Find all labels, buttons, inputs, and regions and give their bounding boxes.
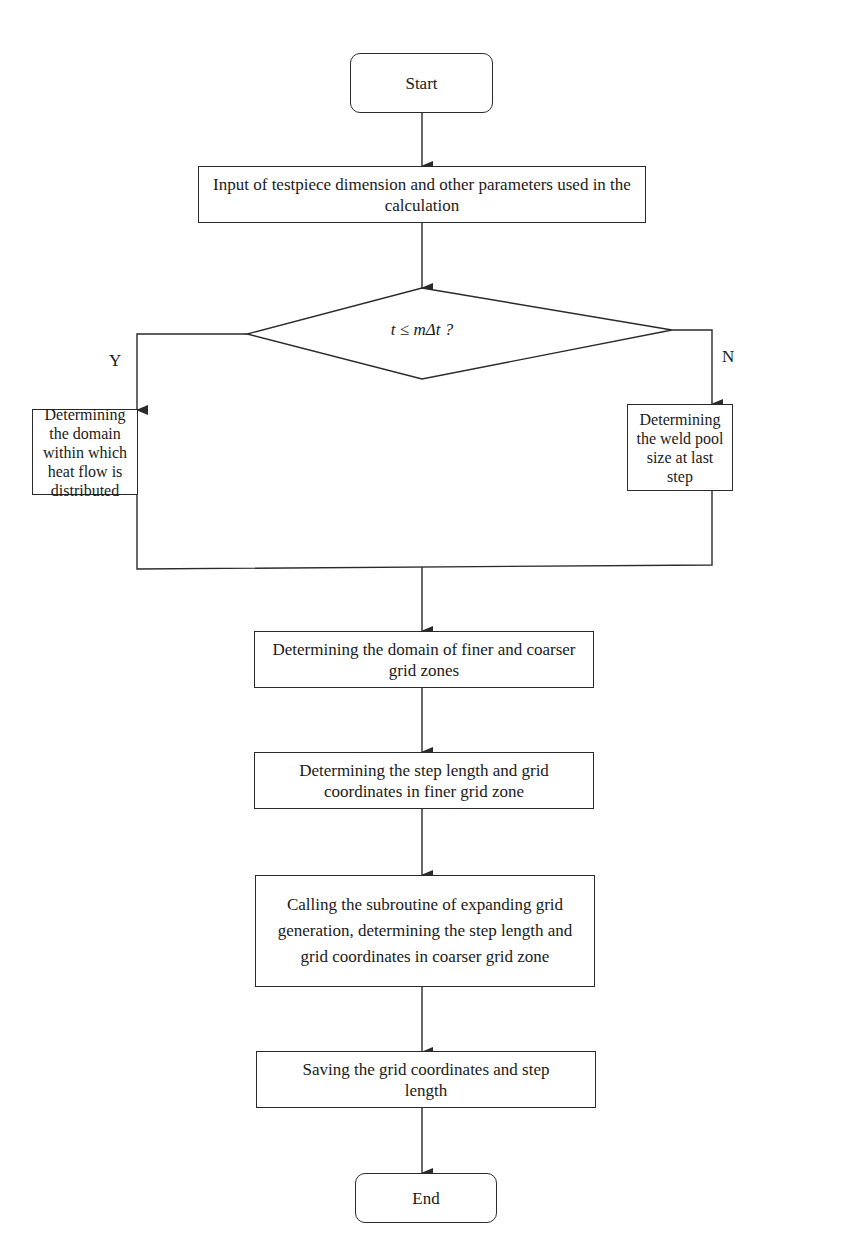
heat-flow-domain-label: Determining the domain within which heat… <box>35 405 135 500</box>
yes-label: Y <box>109 351 121 371</box>
save-grid-node: Saving the grid coordinates and step len… <box>256 1051 596 1108</box>
input-parameters-node: Input of testpiece dimension and other p… <box>198 166 646 223</box>
no-label: N <box>722 347 734 367</box>
weld-pool-size-label: Determining the weld pool size at last s… <box>632 410 728 486</box>
input-parameters-label: Input of testpiece dimension and other p… <box>203 174 641 216</box>
heat-flow-domain-node: Determining the domain within which heat… <box>32 409 138 495</box>
save-grid-label: Saving the grid coordinates and step len… <box>287 1059 565 1101</box>
start-label: Start <box>405 73 437 94</box>
finer-grid-node: Determining the step length and grid coo… <box>254 752 594 809</box>
grid-zones-domain-node: Determining the domain of finer and coar… <box>254 631 594 688</box>
end-node: End <box>355 1173 497 1223</box>
coarser-grid-label: Calling the subroutine of expanding grid… <box>262 892 588 970</box>
coarser-grid-node: Calling the subroutine of expanding grid… <box>255 875 595 987</box>
grid-zones-domain-label: Determining the domain of finer and coar… <box>263 639 585 681</box>
end-label: End <box>412 1188 439 1209</box>
decision-condition: t ≤ mΔt ? <box>372 320 472 340</box>
finer-grid-label: Determining the step length and grid coo… <box>261 760 587 802</box>
weld-pool-size-node: Determining the weld pool size at last s… <box>627 404 733 491</box>
start-node: Start <box>350 53 493 113</box>
